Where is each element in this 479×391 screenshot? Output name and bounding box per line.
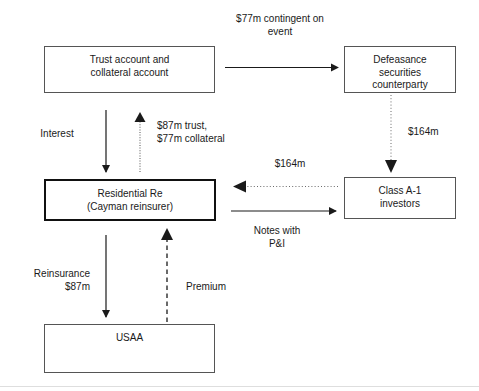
edge-label-contingent-line-2: event [200, 26, 360, 39]
arrow-defeasance-to-class-a1 [385, 95, 397, 173]
edge-label-interest: Interest [24, 128, 90, 141]
node-residential-re-line-2: (Cayman reinsurer) [46, 201, 214, 214]
arrow-residential-re-to-trust [135, 112, 146, 172]
node-defeasance-counterparty-line-3: counterparty [345, 79, 455, 92]
node-class-a1-investors-line-1: Class A-1 [345, 185, 455, 198]
edge-label-premium-line-1: Premium [186, 281, 256, 294]
edge-label-notes-with-pi-line-2: P&I [227, 238, 327, 251]
edge-label-reinsurance-line-2: $87m [10, 281, 90, 294]
arrow-class-a1-to-residential-re [233, 181, 338, 193]
edge-label-reinsurance: Reinsurance $87m [10, 268, 90, 293]
node-trust-account-line-1: Trust account and [45, 54, 214, 67]
edge-label-defeasance-flow-line-1: $164m [408, 126, 470, 139]
edge-label-reinsurance-line-1: Reinsurance [10, 268, 90, 281]
edge-label-contingent: $77m contingent on event [200, 13, 360, 38]
node-defeasance-counterparty-line-2: securities [345, 67, 455, 80]
edge-label-contingent-line-1: $77m contingent on [200, 13, 360, 26]
edge-label-notes-with-pi: Notes with P&I [227, 225, 327, 250]
arrow-usaa-to-residential-re [161, 228, 173, 322]
node-defeasance-counterparty-line-1: Defeasance [345, 54, 455, 67]
node-class-a1-investors[interactable]: Class A-1 investors [344, 177, 456, 219]
edge-label-trust-collateral-line-1: $87m trust, [157, 120, 277, 133]
edge-label-notes-proceeds: $164m [240, 158, 340, 171]
node-class-a1-investors-line-2: investors [345, 198, 455, 211]
edge-label-trust-collateral-line-2: $77m collateral [157, 133, 277, 146]
edge-label-premium: Premium [186, 281, 256, 294]
edge-label-defeasance-flow: $164m [408, 126, 470, 139]
node-usaa[interactable]: USAA [44, 324, 215, 373]
edge-label-trust-collateral: $87m trust, $77m collateral [157, 120, 277, 145]
edge-label-notes-proceeds-line-1: $164m [240, 158, 340, 171]
node-trust-account[interactable]: Trust account and collateral account [44, 46, 215, 93]
node-usaa-line-1: USAA [45, 332, 214, 345]
diagram-canvas: Trust account and collateral account Def… [0, 0, 479, 391]
edge-label-interest-line-1: Interest [24, 128, 90, 141]
node-residential-re[interactable]: Residential Re (Cayman reinsurer) [44, 179, 216, 221]
node-trust-account-line-2: collateral account [45, 67, 214, 80]
node-defeasance-counterparty[interactable]: Defeasance securities counterparty [344, 46, 456, 93]
page-bottom-rule [0, 386, 479, 387]
edge-label-notes-with-pi-line-1: Notes with [227, 225, 327, 238]
node-residential-re-line-1: Residential Re [46, 188, 214, 201]
